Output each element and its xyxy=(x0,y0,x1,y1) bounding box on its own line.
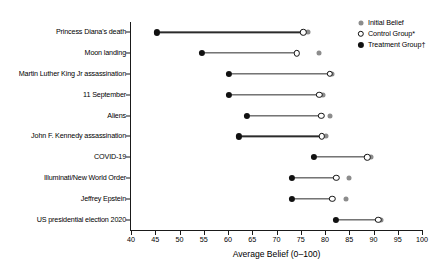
y-axis-tick xyxy=(126,94,130,95)
y-axis-label-group: Princess Diana's deathMoon landingMartin… xyxy=(0,22,126,230)
y-axis-tick xyxy=(126,74,130,75)
y-axis-label: Jeffrey Epstein xyxy=(81,195,126,202)
y-axis-label: Princess Diana's death xyxy=(56,29,126,36)
data-point-initial xyxy=(347,176,352,181)
initial-dot xyxy=(359,20,364,25)
x-axis-tick-label: 40 xyxy=(127,236,135,243)
x-axis-tick-label: 100 xyxy=(416,236,428,243)
x-axis-title: Average Belief (0–100) xyxy=(131,250,422,259)
data-point-initial xyxy=(317,51,322,56)
x-axis-tick-label: 50 xyxy=(176,236,184,243)
data-point-initial xyxy=(327,113,332,118)
connector-line xyxy=(202,53,297,54)
connector-line xyxy=(229,73,330,74)
treatment-marker-icon xyxy=(356,39,368,50)
y-axis-tick xyxy=(126,219,130,220)
control-dot xyxy=(358,30,364,36)
x-axis-tick-label: 65 xyxy=(248,236,256,243)
legend-label: Treatment Group† xyxy=(368,41,425,48)
connector-line xyxy=(247,115,321,116)
legend-item: Control Group* xyxy=(356,28,446,39)
legend-label: Initial Belief xyxy=(368,19,404,26)
connector-line xyxy=(292,177,336,178)
y-axis-tick xyxy=(126,198,130,199)
x-axis-tick-label: 80 xyxy=(321,236,329,243)
y-axis-tick xyxy=(126,157,130,158)
y-axis-label: John F. Kennedy assassination xyxy=(31,133,126,140)
y-axis-label: 11 September xyxy=(83,91,126,98)
x-axis-tick-label: 60 xyxy=(224,236,232,243)
legend-item: Initial Belief xyxy=(356,17,446,28)
x-axis-tick-label: 75 xyxy=(297,236,305,243)
x-axis-tick-label: 95 xyxy=(394,236,402,243)
y-axis-label: COVID-19 xyxy=(94,154,126,161)
initial-marker-icon xyxy=(356,17,368,28)
connector-line xyxy=(292,198,332,199)
data-point-initial xyxy=(306,30,311,35)
connector-line xyxy=(314,157,367,158)
connector-line xyxy=(336,219,379,220)
y-axis-tick xyxy=(126,136,130,137)
chart-legend: Initial BeliefControl Group*Treatment Gr… xyxy=(356,17,446,50)
x-axis-tick-label: 85 xyxy=(345,236,353,243)
legend-label: Control Group* xyxy=(368,30,415,37)
dot-plot-chart: Princess Diana's deathMoon landingMartin… xyxy=(0,0,446,274)
treatment-dot xyxy=(358,41,364,47)
connector-line xyxy=(239,136,322,137)
y-axis-label: US presidential election 2020 xyxy=(37,216,126,223)
y-axis-label: Moon landing xyxy=(85,50,126,57)
x-axis-tick-label: 55 xyxy=(200,236,208,243)
control-marker-icon xyxy=(356,28,368,39)
y-axis-label: Illuminati/New World Order xyxy=(44,174,126,181)
legend-item: Treatment Group† xyxy=(356,39,446,50)
x-axis-tick-label: 70 xyxy=(273,236,281,243)
y-axis-tick xyxy=(126,115,130,116)
data-point-initial xyxy=(343,196,348,201)
x-axis-tick-label: 45 xyxy=(151,236,159,243)
y-axis-label: Aliens xyxy=(107,112,126,119)
y-axis-tick xyxy=(126,178,130,179)
y-axis-label: Martin Luther King Jr assassination xyxy=(19,70,126,77)
x-axis-tick-label: 90 xyxy=(370,236,378,243)
connector-line xyxy=(157,32,303,33)
connector-line xyxy=(229,94,319,95)
y-axis-tick xyxy=(126,32,130,33)
y-axis-tick xyxy=(126,53,130,54)
